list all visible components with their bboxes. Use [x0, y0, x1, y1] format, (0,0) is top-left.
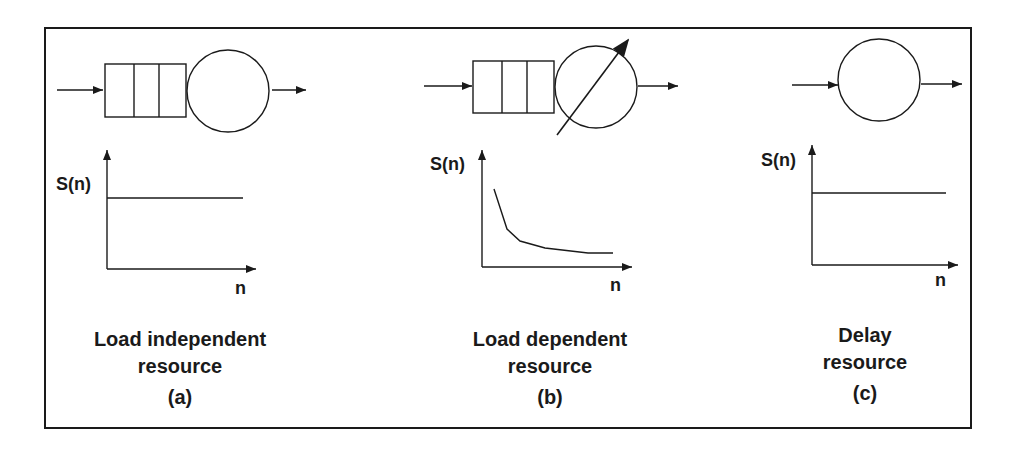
panel-tag: (b): [430, 384, 670, 411]
x-axis-label: n: [235, 278, 246, 299]
panel-tag: (a): [60, 384, 300, 411]
caption-line-2: resource: [430, 353, 670, 380]
x-axis-label: n: [935, 270, 946, 291]
delay-server-icon: [838, 39, 920, 121]
panel-tag: (c): [790, 380, 940, 407]
panel-c-queue: [792, 39, 962, 121]
y-axis-label: S(n): [761, 150, 796, 171]
panel-c-caption: Delay resource (c): [790, 322, 940, 407]
variable-rate-arrow-icon: [557, 40, 628, 135]
x-axis-label: n: [610, 275, 621, 296]
panel-b-caption: Load dependent resource (b): [430, 326, 670, 411]
panel-a-caption: Load independent resource (a): [60, 326, 300, 411]
queue-buffer: [473, 61, 554, 113]
y-axis-label: S(n): [56, 174, 91, 195]
service-demand-curve: [494, 189, 613, 253]
panel-b-plot: [482, 150, 632, 267]
caption-line-2: resource: [790, 349, 940, 376]
variable-rate-server-icon: [555, 46, 637, 128]
panel-b-queue: [424, 40, 678, 135]
caption-line-1: Load independent: [60, 326, 300, 353]
caption-line-2: resource: [60, 353, 300, 380]
panel-a-plot: [107, 150, 256, 269]
y-axis-label: S(n): [430, 154, 465, 175]
panel-a-queue: [57, 50, 306, 132]
caption-line-1: Load dependent: [430, 326, 670, 353]
queue-buffer: [105, 64, 186, 117]
panel-c-plot: [812, 145, 958, 265]
server-icon: [187, 50, 269, 132]
caption-line-1: Delay: [790, 322, 940, 349]
